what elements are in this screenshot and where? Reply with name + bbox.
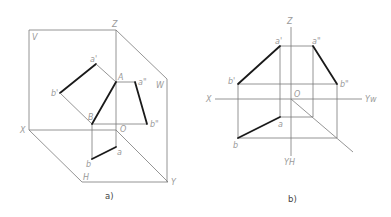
45-degree-line [291, 99, 353, 152]
caption-b: b) [288, 194, 297, 204]
label-a-prime: a' [275, 37, 282, 46]
label-YH: YH [284, 158, 295, 167]
label-O: O [120, 125, 126, 134]
line-a-b [92, 147, 116, 159]
label-V: V [32, 33, 38, 42]
projection-drawing: V Z W X H Y O A B a' b' a" b" a b a) [0, 0, 391, 217]
label-B: B [88, 113, 94, 122]
label-b: b [233, 141, 238, 150]
y-axis [116, 130, 168, 182]
line-a-b [238, 117, 280, 138]
label-a-dprime: a" [312, 37, 321, 46]
label-b-prime: b' [228, 77, 235, 86]
label-H: H [83, 173, 89, 182]
line-a1-b1 [238, 46, 280, 84]
label-b-dprime: b" [340, 80, 349, 89]
label-Z: Z [286, 17, 293, 26]
label-A: A [117, 73, 123, 82]
label-O: O [294, 90, 300, 99]
label-b-dprime: b" [150, 120, 159, 129]
label-a-dprime: a" [138, 78, 147, 87]
label-Y: Y [171, 178, 177, 187]
label-a-prime: a' [90, 55, 97, 64]
line-AB [92, 82, 116, 124]
label-b: b [86, 160, 91, 169]
label-Yw: Yw [365, 95, 377, 104]
line-a2-b2 [135, 82, 147, 124]
projector-a1-A [96, 64, 116, 82]
label-W: W [156, 81, 165, 90]
label-X: X [205, 95, 212, 104]
label-Z: Z [111, 20, 118, 29]
v-plane-outline [29, 30, 116, 130]
figure-b: Z X O Yw YH a' a" b' b" a b b) [205, 17, 377, 204]
figure-a: V Z W X H Y O A B a' b' a" b" a b a) [19, 20, 177, 201]
line-a2-b2 [313, 46, 337, 84]
label-b-prime: b' [51, 89, 58, 98]
line-a1-b1 [60, 64, 96, 93]
caption-a: a) [105, 191, 114, 201]
label-a: a [278, 120, 283, 129]
label-X: X [19, 126, 26, 135]
label-a: a [117, 148, 122, 157]
